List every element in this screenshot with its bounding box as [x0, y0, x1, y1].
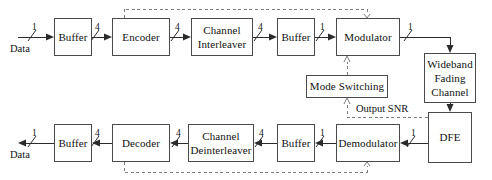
- node-label: Mode Switching: [310, 80, 384, 93]
- arrowhead-modulator-mode-in: [344, 56, 350, 62]
- arrowhead-buffer2-in: [269, 34, 277, 41]
- arrowhead-decoder-in: [170, 140, 178, 147]
- node-tx-buffer[interactable]: Buffer: [54, 18, 92, 56]
- arrowhead-rx-buffer2-in: [315, 140, 323, 147]
- edge-label-tx-input-rate: 1: [32, 22, 37, 32]
- wire-encoder-modulator-control: [124, 9, 367, 18]
- node-decoder[interactable]: Decoder: [112, 124, 170, 162]
- node-channel-interleaver[interactable]: Channel Interleaver: [191, 18, 253, 56]
- node-label: Buffer: [58, 137, 87, 150]
- edge-label-modulator-out-rate: 1: [408, 22, 413, 32]
- node-label: Decoder: [122, 137, 160, 150]
- node-rx-buffer-2[interactable]: Buffer: [277, 124, 315, 162]
- node-modulator[interactable]: Modulator: [336, 18, 400, 56]
- node-wideband-fading-channel[interactable]: Wideband Fading Channel: [424, 53, 476, 103]
- port-label-data-out: Data: [10, 149, 30, 160]
- arrowhead-demodulator-control-in: [364, 162, 370, 166]
- node-label: Encoder: [122, 31, 159, 44]
- node-demodulator[interactable]: Demodulator: [336, 124, 400, 162]
- edge-label-encoder-out-rate: 4: [175, 22, 180, 32]
- block-diagram-canvas: Buffer Encoder Channel Interleaver Buffe…: [0, 0, 492, 180]
- edge-label-demodulator-out-rate: 1: [320, 128, 325, 138]
- edge-label-decoder-out-rate: 4: [95, 128, 100, 138]
- arrowhead-fading-channel-in: [447, 45, 454, 53]
- node-label: Buffer: [58, 31, 87, 44]
- node-mode-switching[interactable]: Mode Switching: [306, 75, 388, 98]
- node-tx-buffer-2[interactable]: Buffer: [277, 18, 315, 56]
- edge-label-dfe-out-rate: 1: [411, 128, 416, 138]
- node-dfe[interactable]: DFE: [428, 112, 472, 163]
- node-encoder[interactable]: Encoder: [112, 18, 170, 56]
- arrowhead-dfe-in: [447, 104, 454, 112]
- node-channel-deinterleaver[interactable]: Channel Deinterleaver: [188, 124, 254, 162]
- node-label: Channel Interleaver: [198, 23, 247, 51]
- edge-label-tx-buffer2-out-rate: 1: [320, 22, 325, 32]
- arrowhead-buffer-in: [46, 34, 54, 41]
- node-label: Buffer: [281, 137, 310, 150]
- node-label: Channel Deinterleaver: [190, 129, 251, 157]
- node-rx-buffer[interactable]: Buffer: [54, 124, 92, 162]
- edge-label-rx-buffer2-out-rate: 4: [259, 128, 264, 138]
- arrowhead-encoder-in: [104, 34, 112, 41]
- port-label-data-in: Data: [10, 43, 30, 54]
- arrowhead-interleaver-in: [183, 34, 191, 41]
- wire-modulator-to-fading-channel: [400, 37, 450, 49]
- arrowhead-modulator-in: [328, 34, 336, 41]
- node-label: Modulator: [344, 31, 391, 44]
- label-output-snr: Output SNR: [356, 103, 408, 114]
- arrowhead-mode-switching-in: [344, 98, 350, 104]
- edge-label-interleaver-out-rate: 4: [258, 22, 263, 32]
- edge-label-tx-buffer-out-rate: 4: [95, 22, 100, 32]
- node-label: Buffer: [281, 31, 310, 44]
- arrowhead-data-out: [18, 140, 26, 147]
- edge-label-rx-output-rate: 1: [32, 128, 37, 138]
- wire-decoder-demodulator-control: [124, 162, 367, 172]
- edge-label-deinterleaver-out-rate: 4: [176, 128, 181, 138]
- arrowhead-demodulator-in: [400, 140, 408, 147]
- node-label: Demodulator: [338, 137, 397, 150]
- arrowhead-deinterleaver-in: [254, 140, 262, 147]
- node-label: DFE: [439, 131, 460, 144]
- node-label: Wideband Fading Channel: [427, 57, 473, 99]
